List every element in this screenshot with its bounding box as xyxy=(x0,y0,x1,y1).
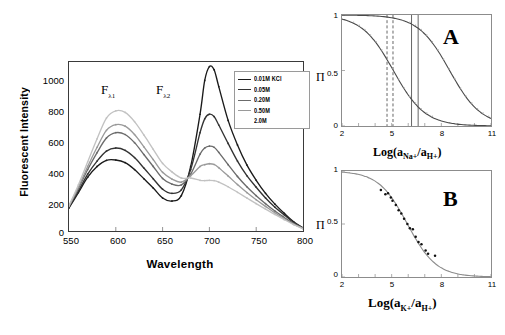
panel-b-ytick-1: 1 xyxy=(320,166,338,174)
legend-swatch-3 xyxy=(238,110,251,111)
panel-a-xtick-5: 5 xyxy=(382,130,402,138)
spectrum-ytick-400: 400 xyxy=(30,169,64,179)
panel-b-label: B xyxy=(443,186,458,212)
panel-a-xtick-2: 2 xyxy=(332,130,352,138)
spectrum-ytick-800: 800 xyxy=(30,107,64,117)
panel-b-xtick-5: 5 xyxy=(382,281,402,289)
panel-b-ytick-0.5: 0.5 xyxy=(320,218,338,226)
spectrum-ytick-600: 600 xyxy=(30,138,64,148)
legend-item-2: 0.20M xyxy=(238,95,309,106)
legend-item-0: 0.01M KCl xyxy=(238,74,309,85)
legend-label-2: 0.20M xyxy=(254,97,270,104)
spectrum-x-axis-label: Wavelength xyxy=(60,258,300,270)
panel-b-ytick-0: 0 xyxy=(320,271,338,279)
panel-a-curves xyxy=(342,15,491,126)
spectrum-legend: 0.01M KCl 0.05M 0.20M 0.50M 2.0M xyxy=(234,71,310,129)
panel-a-label: A xyxy=(443,24,459,50)
legend-label-1: 0.05M xyxy=(254,86,270,93)
legend-label-3: 0.50M xyxy=(254,107,270,114)
legend-label-0: 0.01M KCl xyxy=(254,76,282,83)
spectrum-xtick-550: 550 xyxy=(54,236,88,246)
f-lambda-1-annotation: Fλ1 xyxy=(101,82,115,100)
panel-a-ytick-1: 1 xyxy=(320,12,338,20)
panel-b-xtick-8: 8 xyxy=(432,281,452,289)
legend-item-3: 0.50M xyxy=(238,106,309,117)
panel-a-plot-area xyxy=(341,14,492,127)
panel-a-x-axis-label: Log(aNa+/aH+) xyxy=(373,145,441,161)
spectrum-ytick-1000: 1000 xyxy=(30,76,64,86)
panel-a-ytick-0: 0 xyxy=(320,122,338,130)
spectrum-ytick-200: 200 xyxy=(30,200,64,210)
panel-a: Π 1 0.5 0 A 2 5 8 11 Log(aNa+/aH+) xyxy=(318,2,505,168)
panel-b-scatter xyxy=(342,171,491,277)
legend-swatch-4 xyxy=(238,121,251,122)
legend-swatch-1 xyxy=(238,89,251,90)
spectrum-panel: Fluorescent Intensity 1000 800 600 400 2… xyxy=(0,0,320,335)
legend-item-1: 0.05M xyxy=(238,85,309,96)
panel-b-xtick-2: 2 xyxy=(332,281,352,289)
panel-a-xtick-8: 8 xyxy=(432,130,452,138)
legend-label-4: 2.0M xyxy=(254,118,267,125)
panel-a-ytick-0.5: 0.5 xyxy=(320,70,338,78)
panel-b-plot-area xyxy=(341,170,492,278)
spectrum-xtick-800: 800 xyxy=(288,236,322,246)
panel-b-x-axis-label: Log(aK+/aH+) xyxy=(368,295,437,313)
spectrum-xtick-650: 650 xyxy=(148,236,182,246)
spectrum-xtick-700: 700 xyxy=(195,236,229,246)
legend-swatch-2 xyxy=(238,100,251,101)
panel-b-xtick-11: 11 xyxy=(482,281,502,289)
legend-item-4: 2.0M xyxy=(238,116,309,127)
panel-b: Π 1 0.5 0 B 2 5 8 11 Log(aK+/aH+) xyxy=(318,168,505,335)
panel-a-xtick-11: 11 xyxy=(482,130,502,138)
spectrum-xtick-600: 600 xyxy=(101,236,135,246)
f-lambda-2-annotation: Fλ2 xyxy=(156,82,170,100)
spectrum-xtick-750: 750 xyxy=(242,236,276,246)
legend-swatch-0 xyxy=(238,79,251,80)
